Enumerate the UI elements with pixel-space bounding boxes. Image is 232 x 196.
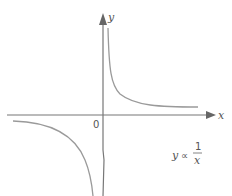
relation-lhs: y xyxy=(171,149,179,162)
hyperbola-diagram: y x 0 y ∝ 1 x xyxy=(0,0,232,196)
x-axis-label: x xyxy=(218,109,225,122)
x-axis-arrow-icon xyxy=(206,111,216,119)
relation-numerator: 1 xyxy=(195,141,201,152)
relation-label: y ∝ 1 x xyxy=(171,141,202,167)
relation-denominator: x xyxy=(194,154,201,167)
y-axis-arrow-icon xyxy=(99,13,107,25)
origin-label: 0 xyxy=(93,119,99,130)
relation-symbol: ∝ xyxy=(181,150,188,161)
curve-first-quadrant xyxy=(108,28,198,107)
y-axis-label: y xyxy=(107,11,115,24)
curve-third-quadrant xyxy=(13,121,93,196)
y-axis xyxy=(103,24,104,196)
